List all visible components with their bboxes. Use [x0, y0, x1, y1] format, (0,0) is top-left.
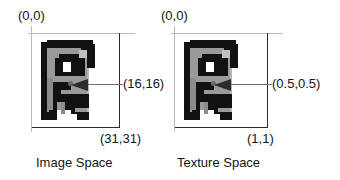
panel-texture-space: (0,0) [157, 0, 327, 180]
image-space-origin-label: (0,0) [18, 9, 45, 23]
texture-space-left-guide-line [174, 26, 175, 132]
texture-space-leader-arrowhead [214, 78, 232, 96]
texture-space-bottom-axis [175, 127, 267, 128]
texture-space-right-axis [267, 33, 268, 128]
image-space-left-guide-line [31, 26, 32, 132]
texture-space-origin-label: (0,0) [161, 9, 188, 23]
texture-space-caption: Texture Space [177, 155, 260, 170]
texture-space-center-label: (0.5,0.5) [272, 77, 320, 91]
figure-canvas: (0,0) [0, 0, 340, 180]
image-space-bottom-axis [32, 127, 120, 128]
image-space-right-axis [119, 33, 120, 128]
panel-image-space: (0,0) [0, 0, 170, 180]
image-space-caption: Image Space [36, 155, 113, 170]
image-space-extent-label: (31,31) [100, 132, 141, 146]
texture-space-extent-label: (1,1) [247, 132, 274, 146]
image-space-leader-arrowhead [71, 78, 89, 96]
